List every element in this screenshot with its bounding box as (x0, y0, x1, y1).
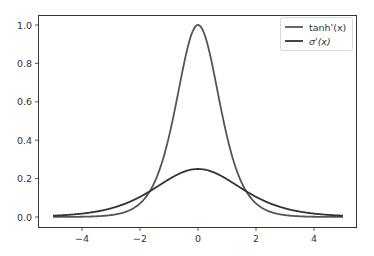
x-axis: −4−2024 (75, 228, 317, 245)
legend-label-sigmoid: σ'(x) (309, 36, 331, 47)
y-tick-label: 0.0 (17, 212, 32, 223)
x-tick-label: 0 (195, 233, 201, 244)
legend: tanh'(x) σ'(x) (281, 18, 353, 51)
y-tick-label: 0.8 (17, 58, 32, 69)
x-tick-label: −4 (75, 233, 89, 244)
y-axis: 0.00.20.40.60.81.0 (17, 20, 39, 223)
y-tick-label: 0.6 (17, 96, 32, 107)
y-tick-label: 0.4 (17, 135, 32, 146)
y-tick-label: 0.2 (17, 173, 32, 184)
legend-label-tanh: tanh'(x) (309, 22, 346, 33)
y-tick-label: 1.0 (17, 20, 32, 31)
x-tick-label: 2 (253, 233, 259, 244)
plot-lines (53, 25, 343, 217)
series-line (53, 25, 343, 217)
x-tick-label: −2 (133, 233, 147, 244)
series-line (53, 169, 343, 216)
x-tick-label: 4 (311, 233, 317, 244)
chart: −4−2024 0.00.20.40.60.81.0 tanh'(x) σ'(x… (0, 0, 374, 256)
